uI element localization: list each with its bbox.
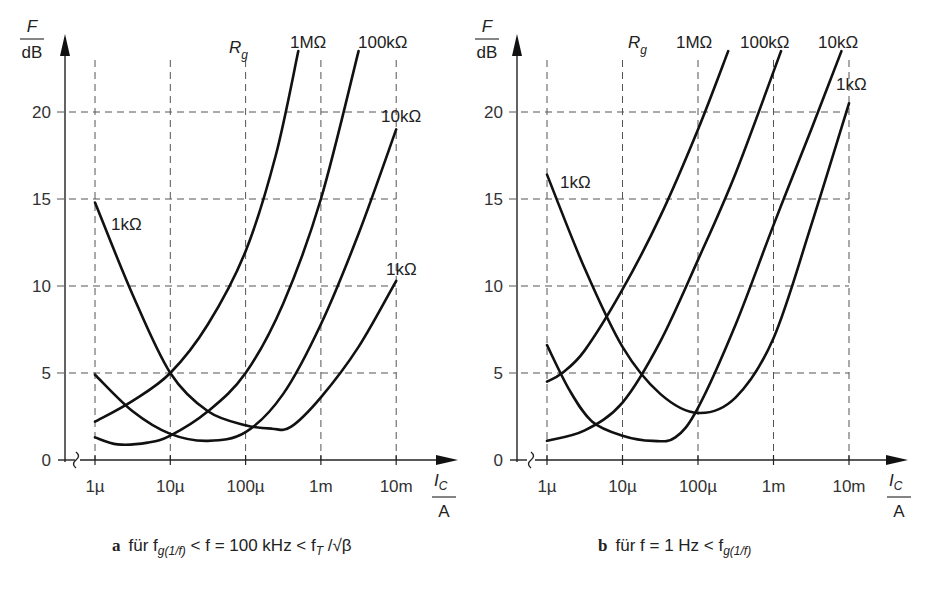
label-a-100k: 100kΩ: [358, 33, 408, 52]
y-tick-label: 20: [484, 103, 503, 122]
curve-1Mohm: [95, 51, 298, 422]
caption-a-sub2: T: [316, 544, 323, 558]
caption-b-sub: g(1/f): [723, 544, 751, 558]
y-tick-label: 10: [484, 277, 503, 296]
x-tick-label: 10µ: [608, 477, 637, 496]
x-tick-label: 10m: [380, 477, 413, 496]
y-tick-label: 20: [32, 103, 51, 122]
x-tick-label: 100µ: [227, 477, 265, 496]
x-tick-label: 1µ: [537, 477, 556, 496]
chart-panel-b: F dB IC A 1µ10µ100µ1m10m05101520 Rg 1MΩ …: [475, 17, 911, 521]
noise-figure-charts: F dB IC A 1µ10µ100µ1m10m05101520 Rg 1MΩ …: [0, 0, 931, 596]
y-axis-arrow-icon: [512, 34, 522, 56]
x-axis-arrow-icon: [436, 455, 458, 465]
label-a-1k-right: 1kΩ: [386, 260, 417, 279]
curve-100kohm: [95, 51, 359, 445]
y-tick-label: 15: [32, 190, 51, 209]
label-b-1k-right: 1kΩ: [836, 75, 867, 94]
caption-a-letter: a: [112, 536, 121, 555]
label-b-100k: 100kΩ: [740, 33, 790, 52]
y-tick-label: 0: [42, 451, 51, 470]
caption-a-sub: g(1/f): [158, 544, 186, 558]
caption-b-letter: b: [598, 536, 607, 555]
x-axis-arrow-icon: [886, 455, 908, 465]
y-tick-label: 10: [32, 277, 51, 296]
x-label-a-bottom: A: [438, 502, 450, 521]
label-b-10k: 10kΩ: [818, 33, 858, 52]
y-tick-label: 15: [484, 190, 503, 209]
x-label-a-top: IC: [434, 471, 448, 493]
grid-b: [509, 60, 849, 460]
chart-panel-a: F dB IC A 1µ10µ100µ1m10m05101520 Rg 1MΩ …: [20, 17, 458, 521]
y-label-a-bottom: dB: [22, 43, 43, 62]
label-a-1M: 1MΩ: [290, 33, 326, 52]
caption-a-text: für f: [129, 536, 158, 555]
axis-break-icon: [529, 452, 534, 468]
caption-a-rest: < f = 100 kHz < f: [186, 536, 316, 555]
x-tick-label: 100µ: [679, 477, 717, 496]
x-label-b-top: IC: [889, 471, 903, 493]
caption-b-text: für f = 1 Hz < f: [615, 536, 723, 555]
y-axis-arrow-icon: [60, 34, 70, 56]
y-label-b-top: F: [482, 17, 494, 36]
legend-title-b: Rg: [628, 33, 647, 57]
caption-b: bfür f = 1 Hz < fg(1/f): [598, 536, 751, 558]
y-tick-label: 5: [494, 364, 503, 383]
grid-a: [57, 60, 396, 460]
label-b-1k-left: 1kΩ: [560, 173, 591, 192]
curve-1Mohm: [547, 51, 728, 382]
label-a-10k: 10kΩ: [381, 107, 421, 126]
y-tick-label: 0: [494, 451, 503, 470]
y-tick-label: 5: [42, 364, 51, 383]
x-tick-label: 10m: [832, 477, 865, 496]
legend-title-a: Rg: [229, 38, 248, 62]
x-tick-label: 1m: [309, 477, 333, 496]
curve-10kohm: [547, 51, 841, 441]
curve-10kohm: [95, 129, 396, 440]
curve-100kohm: [547, 51, 781, 441]
x-tick-label: 10µ: [156, 477, 185, 496]
caption-a: afür fg(1/f) < f = 100 kHz < fT /√β: [112, 536, 352, 558]
x-label-b-bottom: A: [893, 502, 905, 521]
caption-a-end: /√β: [323, 536, 352, 555]
label-a-1k-left: 1kΩ: [111, 215, 142, 234]
x-tick-label: 1µ: [85, 477, 104, 496]
x-tick-label: 1m: [762, 477, 786, 496]
y-label-a-top: F: [27, 17, 39, 36]
y-label-b-bottom: dB: [477, 43, 498, 62]
label-b-1M: 1MΩ: [676, 33, 712, 52]
